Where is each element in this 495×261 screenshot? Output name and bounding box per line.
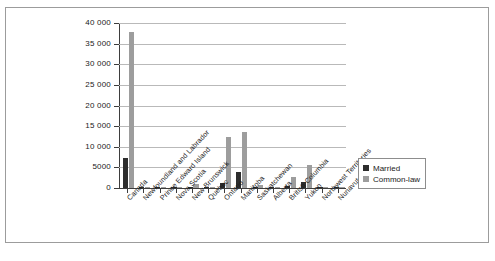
x-axis-tick [192, 189, 193, 193]
y-axis-tick-label: 25 000 [51, 80, 111, 89]
gridline [119, 188, 346, 189]
bar-married [269, 187, 274, 188]
x-axis-tick [305, 189, 306, 193]
bar-group [297, 23, 313, 188]
bar-married [155, 187, 160, 188]
bar-married [171, 187, 176, 188]
bar-common-law [226, 137, 231, 188]
y-axis-tick [114, 147, 119, 148]
bar-group [216, 23, 232, 188]
x-axis-tick [143, 189, 144, 193]
bar-married [139, 187, 144, 188]
x-axis-tick [338, 189, 339, 193]
bar-group [281, 23, 297, 188]
y-axis-tick [114, 126, 119, 127]
plot-area [119, 23, 346, 188]
bar-group [184, 23, 200, 188]
x-axis-tick [208, 189, 209, 193]
bar-common-law [339, 187, 344, 188]
bar-group [265, 23, 281, 188]
bar-married [253, 187, 258, 188]
y-axis-tick-label: 20 000 [51, 101, 111, 110]
bar-common-law [161, 187, 166, 188]
y-axis-tick [114, 64, 119, 65]
bar-common-law [275, 187, 280, 188]
bar-married [204, 187, 209, 188]
x-axis-tick [224, 189, 225, 193]
bar-group [151, 23, 167, 188]
bar-common-law [145, 187, 150, 188]
y-axis-tick-label: 5000 [51, 162, 111, 171]
legend-swatch-icon [363, 176, 369, 182]
x-axis-tick [289, 189, 290, 193]
bar-married [123, 158, 128, 188]
y-axis-tick [114, 188, 119, 189]
bar-group [200, 23, 216, 188]
y-axis-tick [114, 44, 119, 45]
bar-common-law [177, 187, 182, 188]
legend-label: Common-law [373, 175, 420, 184]
bar-group [168, 23, 184, 188]
bar-group [233, 23, 249, 188]
y-axis-tick-label: 40 000 [51, 18, 111, 27]
y-axis-tick [114, 167, 119, 168]
bar-group [135, 23, 151, 188]
bar-common-law [291, 177, 296, 188]
bar-common-law [193, 184, 198, 188]
bar-married [220, 183, 225, 188]
bar-common-law [323, 187, 328, 188]
bar-married [188, 187, 193, 188]
x-axis-tick [322, 189, 323, 193]
bar-group [119, 23, 135, 188]
legend-label: Married [373, 164, 400, 173]
bar-common-law [307, 165, 312, 188]
y-axis-tick [114, 23, 119, 24]
x-axis-tick [241, 189, 242, 193]
bar-common-law [242, 132, 247, 188]
legend-item[interactable]: Common-law [363, 174, 420, 184]
y-axis-tick-labels: 0500010 00015 00020 00025 00030 00035 00… [49, 8, 111, 208]
chart-legend: MarriedCommon-law [358, 158, 426, 189]
figure-frame: 0500010 00015 00020 00025 00030 00035 00… [5, 7, 489, 243]
y-axis-tick-label: 0 [51, 183, 111, 192]
bar-common-law [210, 187, 215, 188]
page-bottom-artifact [5, 248, 489, 258]
x-axis-tick [257, 189, 258, 193]
y-axis-tick-label: 35 000 [51, 39, 111, 48]
bar-married [285, 186, 290, 188]
bar-group [249, 23, 265, 188]
x-axis-tick [273, 189, 274, 193]
bar-group [330, 23, 346, 188]
x-axis-tick [160, 189, 161, 193]
y-axis-tick [114, 85, 119, 86]
bar-married [236, 172, 241, 188]
legend-item[interactable]: Married [363, 163, 420, 173]
y-axis-tick-label: 15 000 [51, 121, 111, 130]
bar-married [317, 187, 322, 188]
y-axis-tick-label: 30 000 [51, 59, 111, 68]
bar-common-law [258, 185, 263, 188]
bar-group [314, 23, 330, 188]
bar-common-law [129, 32, 134, 188]
x-axis-tick [176, 189, 177, 193]
bar-married [334, 187, 339, 188]
y-axis-tick [114, 106, 119, 107]
x-axis-tick [127, 189, 128, 193]
legend-swatch-icon [363, 165, 369, 171]
bar-married [301, 182, 306, 188]
y-axis-tick-label: 10 000 [51, 142, 111, 151]
